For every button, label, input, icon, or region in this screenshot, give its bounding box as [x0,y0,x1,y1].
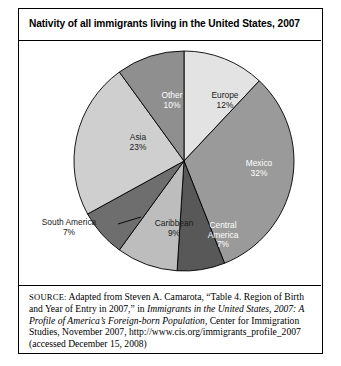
pie-chart: Europe 12% Mexico 32% Other 10% Asia 23%… [19,41,321,284]
slice-label-asia-value: 23% [115,143,161,153]
source-divider [19,285,321,286]
slice-label-mexico-value: 32% [231,169,287,179]
slice-label-central-america: Central America 7% [201,221,245,250]
figure-container: Nativity of all immigrants living in the… [18,8,323,354]
source-citation: SOURCE: Adapted from Steven A. Camarota,… [29,291,315,349]
slice-label-south-america: South America 7% [21,218,117,237]
slice-label-south-america-value: 7% [21,228,117,238]
figure-title: Nativity of all immigrants living in the… [29,18,317,30]
slice-label-caribbean-value: 9% [143,229,205,239]
slice-label-other-value: 10% [147,101,197,111]
slice-label-asia: Asia 23% [115,133,161,152]
source-label: SOURCE: [29,292,67,302]
slice-label-other: Other 10% [147,91,197,110]
slice-label-central-america-value: 7% [201,240,245,250]
slice-label-europe: Europe 12% [197,91,253,110]
slice-label-europe-value: 12% [197,101,253,111]
slice-label-mexico: Mexico 32% [231,159,287,178]
slice-label-caribbean: Caribbean 9% [143,219,205,238]
